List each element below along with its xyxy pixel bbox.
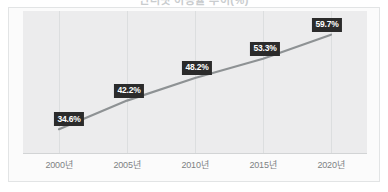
data-label: 34.6% [54, 112, 84, 126]
series-polyline [59, 35, 331, 130]
line-series [23, 11, 367, 154]
x-tick-label: 2020년 [317, 158, 344, 171]
x-axis: 2000년2005년2010년2015년2020년 [23, 158, 367, 178]
page-title: 인터넷 이용률 추이(%) [0, 0, 388, 7]
data-label: 59.7% [312, 18, 342, 32]
data-label: 48.2% [182, 61, 212, 75]
chart-frame: 34.6%42.2%48.2%53.3%59.7% 2000년2005년2010… [8, 7, 380, 182]
data-label: 42.2% [114, 84, 144, 98]
x-tick-label: 2015년 [249, 158, 276, 171]
data-label: 53.3% [250, 42, 280, 56]
x-tick-label: 2010년 [181, 158, 208, 171]
plot-area: 34.6%42.2%48.2%53.3%59.7% [23, 11, 367, 154]
chart-title-strip: 인터넷 이용률 추이(%) [0, 0, 388, 7]
x-tick-label: 2005년 [113, 158, 140, 171]
x-tick-label: 2000년 [45, 158, 72, 171]
